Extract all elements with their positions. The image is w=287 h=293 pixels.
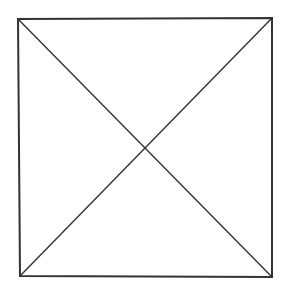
diagonal-tr-bl xyxy=(20,18,272,276)
square-diagonals-diagram xyxy=(0,0,287,293)
